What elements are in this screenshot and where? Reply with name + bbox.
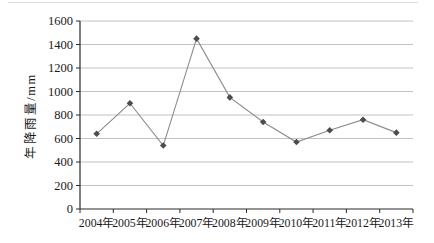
y-tick-label: 0 xyxy=(67,202,73,216)
y-tick-label: 200 xyxy=(54,179,73,193)
data-point-marker xyxy=(393,129,400,136)
x-tick-label: 2007年 xyxy=(179,216,215,230)
x-tick-label: 2010年 xyxy=(279,216,315,230)
x-tick-label: 2011年 xyxy=(312,216,347,230)
x-tick-label: 2012年 xyxy=(345,216,381,230)
x-tick-label: 2009年 xyxy=(245,216,281,230)
y-tick-label: 400 xyxy=(54,155,73,169)
x-tick-label: 2005年 xyxy=(112,216,148,230)
x-tick-label: 2013年 xyxy=(379,216,415,230)
annual-rainfall-line-chart: 020040060080010001200140016002004年2005年2… xyxy=(0,0,434,243)
x-tick-label: 2008年 xyxy=(212,216,248,230)
y-tick-label: 1600 xyxy=(48,14,73,28)
y-axis-title: 年降雨量/mm xyxy=(20,73,39,158)
data-point-marker xyxy=(193,35,200,42)
x-tick-label: 2004年 xyxy=(79,216,115,230)
data-point-marker xyxy=(360,116,367,123)
chart-canvas: 020040060080010001200140016002004年2005年2… xyxy=(0,0,434,243)
data-point-marker xyxy=(293,139,300,146)
y-tick-label: 1000 xyxy=(48,85,73,99)
y-tick-label: 1400 xyxy=(48,38,73,52)
y-tick-label: 600 xyxy=(54,132,73,146)
y-tick-label: 800 xyxy=(54,108,73,122)
y-tick-label: 1200 xyxy=(48,61,73,75)
rainfall-data-line xyxy=(97,39,397,146)
x-tick-label: 2006年 xyxy=(145,216,181,230)
data-point-marker xyxy=(326,127,333,134)
